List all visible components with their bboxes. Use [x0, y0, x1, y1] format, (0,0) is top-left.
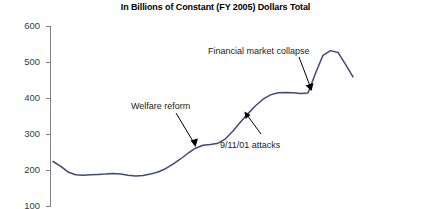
annotation-arrow-nine-eleven-attacks: [245, 112, 262, 135]
annotation-arrow-welfare-reform: [176, 113, 198, 147]
annotation-arrow-financial-market-collapse: [299, 57, 314, 91]
y-tick-label-200: 200: [14, 164, 40, 175]
chart-plot-area: [0, 0, 431, 209]
y-tick-label-500: 500: [14, 56, 40, 67]
y-axis-ticks: [46, 27, 51, 207]
annotation-label-nine-eleven-attacks: 9/11/01 attacks: [220, 140, 280, 150]
y-tick-label-300: 300: [14, 128, 40, 139]
y-tick-label-100: 100: [14, 200, 40, 209]
annotation-label-welfare-reform: Welfare reform: [131, 101, 190, 111]
chart-container: In Billions of Constant (FY 2005) Dollar…: [0, 0, 431, 209]
y-tick-label-600: 600: [14, 20, 40, 31]
annotation-label-financial-market-collapse: Financial market collapse: [208, 46, 310, 56]
data-line-series-0: [53, 51, 353, 176]
y-tick-label-400: 400: [14, 92, 40, 103]
